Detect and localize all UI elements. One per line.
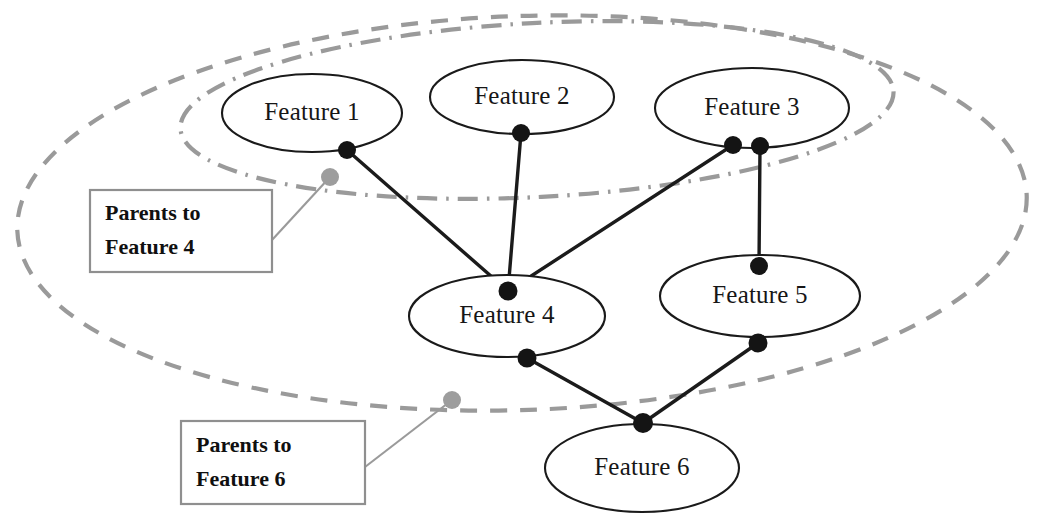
edge-dot-d-f1-bottom: [338, 141, 356, 159]
callout-feature-6-line1: Parents to: [196, 432, 292, 457]
node-f3-label: Feature 3: [704, 93, 800, 120]
anchor-dot-callout-feature-4: [321, 168, 339, 186]
node-f1-label: Feature 1: [264, 98, 360, 125]
edge-dot-d-f3-bottom-left: [724, 136, 742, 154]
node-f4-label: Feature 4: [459, 301, 555, 328]
edge-f1-to-f4: [347, 150, 508, 291]
node-f6[interactable]: Feature 6: [545, 424, 739, 512]
edge-f3-to-f5: [759, 146, 760, 266]
node-f2-label: Feature 2: [474, 82, 570, 109]
anchor-dot-callout-feature-6: [443, 391, 461, 409]
callout-feature-6-line2: Feature 6: [196, 466, 285, 491]
edge-f4-to-f6: [527, 358, 643, 423]
callout-feature-4-line1: Parents to: [105, 200, 201, 225]
node-f1[interactable]: Feature 1: [222, 74, 402, 152]
node-f6-label: Feature 6: [594, 453, 690, 480]
node-f2[interactable]: Feature 2: [430, 60, 614, 134]
edge-dot-d-f6-top: [633, 413, 653, 433]
edge-f2-to-f4: [508, 133, 521, 291]
edge-dot-d-f4-top: [499, 282, 518, 301]
callout-feature-4-line2: Feature 4: [105, 234, 194, 259]
feature-parents-diagram: Feature 1Feature 2Feature 3Feature 4Feat…: [0, 0, 1040, 525]
edge-dot-d-f5-bottom: [749, 334, 768, 353]
edge-dot-d-f4-bottom: [518, 349, 537, 368]
edge-dot-d-f5-top: [750, 257, 768, 275]
diagram-canvas: Feature 1Feature 2Feature 3Feature 4Feat…: [0, 0, 1040, 525]
callout-feature-6[interactable]: Parents to Feature 6: [181, 421, 365, 504]
node-f5-label: Feature 5: [712, 281, 808, 308]
edge-dot-d-f2-bottom: [512, 124, 530, 142]
node-f3[interactable]: Feature 3: [655, 68, 849, 148]
edge-dot-d-f3-bottom-right: [751, 137, 769, 155]
callout-feature-4[interactable]: Parents to Feature 4: [90, 190, 272, 272]
